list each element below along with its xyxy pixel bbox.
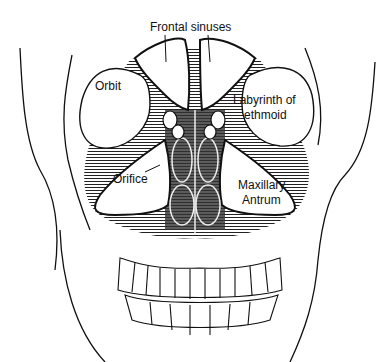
teeth bbox=[118, 258, 282, 335]
sinus-diagram: Frontal sinuses Orbit Labyrinth of ethmo… bbox=[0, 0, 390, 362]
label-orbit: Orbit bbox=[95, 79, 121, 93]
label-orifice: Orifice bbox=[113, 172, 148, 186]
label-labyrinth-line1: Labyrinth of bbox=[233, 93, 296, 107]
label-maxillary-line1: Maxillary bbox=[238, 178, 285, 192]
skull-illustration bbox=[0, 0, 390, 362]
label-labyrinth-line2: ethmoid bbox=[244, 108, 287, 122]
label-frontal-sinuses: Frontal sinuses bbox=[150, 20, 231, 34]
label-maxillary-line2: Antrum bbox=[242, 193, 281, 207]
